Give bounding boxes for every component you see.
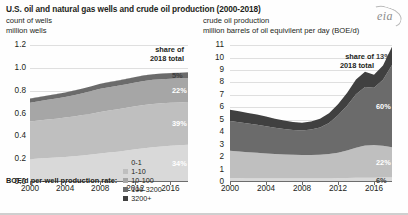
- share-label: 13%: [376, 52, 391, 61]
- legend: BOE/d per-well production rate: 0-11-101…: [6, 158, 170, 203]
- legend-label: 10-100: [131, 176, 153, 185]
- legend-label: 100-3200: [131, 185, 161, 194]
- y-tick-label: 2: [202, 153, 224, 161]
- legend-label: 1-10: [131, 167, 145, 176]
- share-label: 5%: [172, 71, 183, 80]
- x-tick-label: 2008: [288, 184, 316, 193]
- x-tick-label: 2004: [252, 184, 280, 193]
- share-header-production: share of2018 total: [330, 52, 374, 70]
- y-tick-label: 7: [202, 91, 224, 99]
- legend-swatch: [123, 196, 128, 201]
- legend-swatch: [123, 178, 128, 183]
- legend-items: 0-11-1010-100100-32003200+: [123, 158, 169, 203]
- share-label: 6%: [376, 176, 387, 185]
- legend-swatch: [123, 169, 128, 174]
- right-panel-units: million barrels of oil equivilent per da…: [203, 26, 359, 35]
- x-tick-label: 2000: [216, 184, 244, 193]
- y-tick-label: 9: [202, 66, 224, 74]
- share-header-line: 2018 total: [330, 61, 374, 70]
- share-label: 22%: [376, 158, 391, 167]
- legend-label: 3200+: [131, 194, 151, 203]
- share-label: 34%: [172, 159, 187, 168]
- y-tick-label: 1.0: [0, 64, 26, 72]
- y-tick-label: 10: [202, 54, 224, 62]
- chart-panel-production: 01234567891011 20002004200820122016 13%6…: [202, 36, 408, 186]
- x-tick-label: 2016: [360, 184, 388, 193]
- legend-item[interactable]: 1-10: [123, 167, 161, 176]
- left-panel-subtitle: count of wells: [6, 16, 52, 25]
- logo-arc-icon: [368, 3, 404, 31]
- figure-root: U.S. oil and natural gas wells and crude…: [0, 0, 408, 215]
- y-tick-label: 8: [202, 78, 224, 86]
- share-label: 39%: [172, 119, 187, 128]
- y-tick-label: 1.2: [0, 41, 26, 49]
- y-tick-label: 0.6: [0, 110, 26, 118]
- legend-item[interactable]: 100-3200: [123, 185, 161, 194]
- page-title: U.S. oil and natural gas wells and crude…: [6, 4, 261, 14]
- y-tick-label: 1: [202, 166, 224, 174]
- legend-item[interactable]: 0-1: [123, 158, 161, 167]
- legend-swatch: [123, 187, 128, 192]
- share-label: 22%: [172, 86, 187, 95]
- legend-item[interactable]: 3200+: [123, 194, 161, 203]
- legend-title: BOE/d per-well production rate:: [6, 176, 117, 185]
- left-panel-units: million wells: [6, 26, 47, 35]
- share-header-wells: share of2018 total: [140, 45, 184, 63]
- y-tick-label: 6: [202, 103, 224, 111]
- x-axis-production: [230, 181, 392, 182]
- x-tick-label: 2012: [324, 184, 352, 193]
- legend-label: 0-1: [131, 158, 141, 167]
- y-tick-label: 4: [202, 128, 224, 136]
- y-tick-label: 0.8: [0, 87, 26, 95]
- share-label: 60%: [376, 102, 391, 111]
- legend-item[interactable]: 10-100: [123, 176, 161, 185]
- share-header-line: share of: [330, 52, 374, 61]
- y-tick-label: 0.4: [0, 132, 26, 140]
- y-tick-label: 3: [202, 141, 224, 149]
- eia-logo: eia: [368, 6, 402, 27]
- share-header-line: 2018 total: [140, 54, 184, 63]
- y-tick-label: 5: [202, 116, 224, 124]
- right-panel-subtitle: crude oil production: [203, 16, 269, 25]
- y-tick-label: 11: [202, 41, 224, 49]
- legend-swatch: [123, 160, 128, 165]
- bottom-divider: [0, 213, 408, 215]
- share-header-line: share of: [140, 45, 184, 54]
